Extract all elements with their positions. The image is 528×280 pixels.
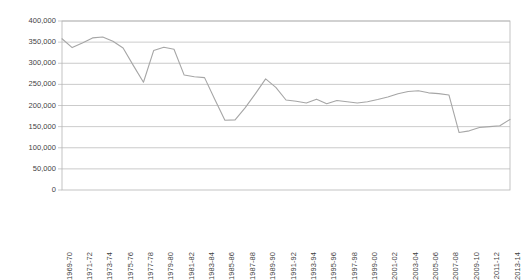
x-tick-label: 1973-74 xyxy=(106,252,114,280)
x-tick-label: 1983-84 xyxy=(208,252,216,280)
x-tick-label: 2011-12 xyxy=(493,252,501,279)
x-axis: 1969-701971-721973-741975-761977-781979-… xyxy=(0,190,528,258)
x-tick-label: 1975-76 xyxy=(127,252,135,280)
x-tick-label: 1993-94 xyxy=(310,252,318,280)
x-tick-label: 2001-02 xyxy=(391,252,399,280)
x-tick-label: 1977-78 xyxy=(147,252,155,280)
x-tick-label: 1991-92 xyxy=(290,252,298,280)
x-tick-label: 1981-82 xyxy=(188,252,196,280)
x-tick-label: 1997-98 xyxy=(351,252,359,280)
x-tick-label: 1999-00 xyxy=(371,252,379,280)
x-tick-label: 1979-80 xyxy=(167,252,175,280)
gridlines xyxy=(62,21,510,169)
y-axis-ticks xyxy=(58,21,62,190)
data-series-line xyxy=(62,37,510,132)
x-tick-label: 1989-90 xyxy=(269,252,277,280)
x-tick-label: 2003-04 xyxy=(412,252,420,280)
x-tick-label: 2005-06 xyxy=(432,252,440,280)
x-tick-label: 1971-72 xyxy=(86,252,94,280)
x-tick-label: 1985-86 xyxy=(228,252,236,280)
x-tick-label: 2007-08 xyxy=(452,252,460,280)
x-tick-label: 1987-88 xyxy=(249,252,257,280)
x-tick-label: 1969-70 xyxy=(66,252,74,280)
x-tick-label: 1995-96 xyxy=(330,252,338,280)
x-tick-label: 2009-10 xyxy=(473,252,481,280)
x-tick-label: 2013-14 xyxy=(514,252,522,280)
